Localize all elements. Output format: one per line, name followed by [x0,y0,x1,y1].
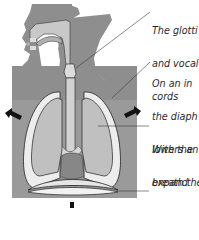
teeth-lower [30,46,36,50]
trachea [66,78,75,152]
larynx [64,64,76,78]
arrow-down-icon [70,202,74,208]
teeth-upper [30,38,36,42]
label-line: The glotti [152,25,198,36]
label-line: On an in [152,78,198,89]
label-diaphragm: Diaphrag [152,185,196,208]
label-line: Diaphrag [152,207,196,208]
label-line: With the [152,144,199,155]
lips [26,42,30,46]
label-line: the diaph [152,111,198,122]
heart [60,153,84,179]
tongue [36,37,62,46]
